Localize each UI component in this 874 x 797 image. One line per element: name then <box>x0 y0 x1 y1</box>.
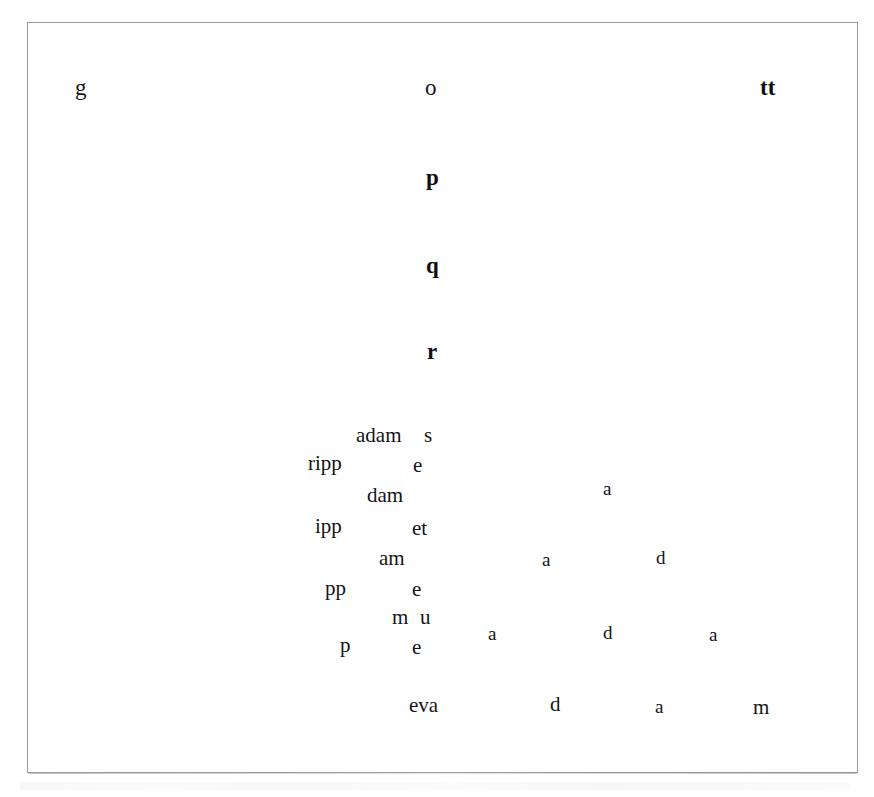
glyph-fragment: a <box>655 697 663 716</box>
glyph-fragment: dam <box>367 485 403 506</box>
glyph-fragment: m <box>392 607 408 628</box>
glyph-fragment: p <box>426 166 439 189</box>
glyph-fragment: a <box>603 479 611 498</box>
glyph-fragment: e <box>412 637 421 658</box>
scan-artifact-band <box>20 782 850 790</box>
plate-border-frame: gottpqradamsrippeadamippetamadppemuadape… <box>27 22 858 773</box>
glyph-fragment: a <box>709 625 717 644</box>
glyph-fragment: a <box>542 550 550 569</box>
glyph-fragment: d <box>550 694 561 715</box>
glyph-fragment: r <box>427 340 437 363</box>
glyph-fragment: a <box>488 624 496 643</box>
glyph-fragment: s <box>424 425 432 446</box>
glyph-fragment: p <box>340 635 351 656</box>
glyph-fragment: e <box>413 455 422 476</box>
glyph-fragment: e <box>412 579 421 600</box>
glyph-fragment: m <box>753 697 769 718</box>
glyph-fragment: d <box>603 623 613 642</box>
glyph-fragment: am <box>379 548 405 569</box>
glyph-fragment: q <box>426 254 439 277</box>
glyph-fragment: tt <box>760 76 775 99</box>
glyph-fragment: o <box>425 76 437 99</box>
glyph-fragment: ripp <box>308 453 342 474</box>
scanned-page-sheet: gottpqradamsrippeadamippetamadppemuadape… <box>0 0 874 797</box>
glyph-fragment: ipp <box>315 516 342 537</box>
glyph-fragment: u <box>420 607 431 628</box>
glyph-fragment: et <box>412 518 427 539</box>
glyph-fragment: g <box>75 76 87 99</box>
glyph-fragment: pp <box>325 578 346 599</box>
glyph-fragment: eva <box>409 695 438 716</box>
glyph-fragment: d <box>656 548 666 567</box>
glyph-fragment: adam <box>356 425 401 446</box>
